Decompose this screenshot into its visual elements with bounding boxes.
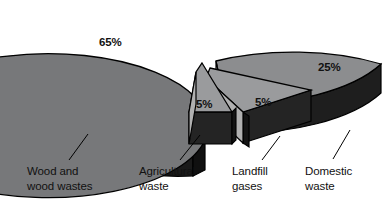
category-label-line2: waste [139,179,195,194]
category-label-wood-and-wood-wastes: Wood and wood wastes [27,164,92,194]
data-label-agricultural-waste: 5% [196,99,212,111]
leader-line-domestic [333,130,350,159]
category-label-domestic-waste: Domestic waste [305,164,352,194]
category-label-line1: Landfill [232,164,268,179]
category-label-line1: Domestic [305,164,352,179]
slice-landfill-front [243,112,249,147]
category-label-landfill-gases: Landfill gases [232,164,268,194]
data-label-wood-and-wood-wastes: 65% [99,37,121,49]
category-label-line1: Wood and [27,164,92,179]
data-label-landfill-gases: 5% [255,97,271,109]
category-label-line2: waste [305,179,352,194]
data-label-domestic-waste: 25% [318,62,340,74]
category-label-agricultural-waste: Agricultural waste [139,164,195,194]
leader-line-landfill [262,136,280,160]
category-label-line2: gases [232,179,268,194]
slice-agricultural-side [189,112,232,144]
category-label-line1: Agricultural [139,164,195,179]
category-label-line2: wood wastes [27,179,92,194]
pie-chart-figure: 65% 5% 5% 25% Wood and wood wastes Agric… [0,0,388,211]
slice-agricultural-edge-right [232,108,236,144]
